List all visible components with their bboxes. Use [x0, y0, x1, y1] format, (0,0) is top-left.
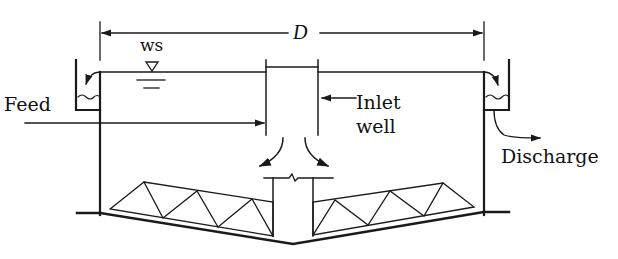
inlet-well-label-line2: well	[356, 117, 396, 136]
center-column	[264, 174, 333, 236]
effluent-launder-right	[484, 60, 540, 215]
water-surface-label: ws	[140, 37, 163, 54]
discharge-label: Discharge	[501, 147, 599, 166]
inlet-well	[260, 60, 356, 166]
effluent-launder-left	[76, 60, 100, 215]
diameter-label: D	[293, 22, 307, 42]
feed-label: Feed	[4, 95, 51, 114]
sloped-floor	[77, 212, 509, 244]
inlet-well-label-line1: Inlet	[356, 93, 401, 112]
water-surface-symbol	[137, 62, 165, 88]
clarifier-drawing	[0, 0, 618, 259]
